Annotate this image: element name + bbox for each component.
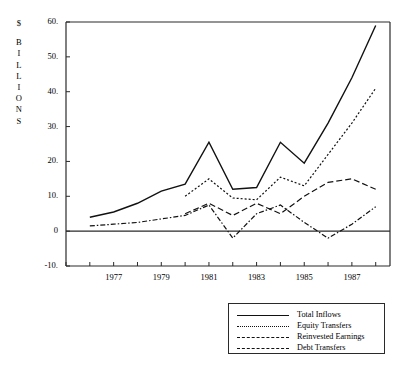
legend-label: Total Inflows <box>297 310 341 319</box>
legend-entry: Total Inflows <box>237 310 383 321</box>
legend-line-sample <box>237 326 289 327</box>
chart-figure: $BILLIONS -10.010.20.30.40.50.60. 197719… <box>0 0 411 373</box>
legend-entry: Equity Transfers <box>237 321 383 332</box>
x-tick-label: 1985 <box>287 272 321 282</box>
legend-label: Debt Transfers <box>297 343 345 352</box>
series-line-equity-transfers <box>185 88 376 200</box>
legend-entry: Reinvested Earnings <box>237 332 383 343</box>
y-tick-label: 60. <box>32 16 58 26</box>
chart-legend: Total InflowsEquity TransfersReinvested … <box>228 303 385 354</box>
x-tick-label: 1981 <box>192 272 226 282</box>
series-line-total-inflows <box>90 25 376 217</box>
x-tick-label: 1977 <box>97 272 131 282</box>
y-tick-label: 20. <box>32 155 58 165</box>
y-tick-label: 30. <box>32 121 58 131</box>
y-tick-label: 50. <box>32 51 58 61</box>
x-tick-label: 1979 <box>144 272 178 282</box>
legend-label: Equity Transfers <box>297 321 351 330</box>
y-tick-label: 10. <box>32 190 58 200</box>
y-tick-label: 0 <box>32 225 58 235</box>
legend-entry: Debt Transfers <box>237 343 383 354</box>
y-tick-label: -10. <box>32 260 58 270</box>
legend-line-sample <box>237 348 289 349</box>
legend-line-sample <box>237 315 289 316</box>
legend-label: Reinvested Earnings <box>297 332 365 341</box>
x-tick-label: 1983 <box>240 272 274 282</box>
series-line-reinvested-earnings <box>90 205 376 238</box>
series-line-debt-transfers <box>185 179 376 216</box>
legend-line-sample <box>237 337 289 338</box>
x-tick-label: 1987 <box>335 272 369 282</box>
y-tick-label: 40. <box>32 86 58 96</box>
